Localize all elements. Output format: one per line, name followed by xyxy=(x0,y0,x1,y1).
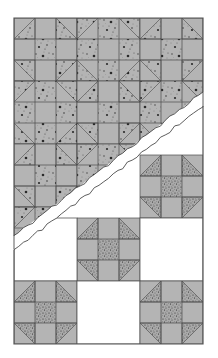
quilt-diagram xyxy=(0,0,218,358)
plain-white-square xyxy=(77,281,140,344)
plain-white-square xyxy=(140,218,203,281)
upper-shoofly-block xyxy=(140,18,203,81)
upper-alternate-block xyxy=(14,81,77,144)
lower-shoofly-block xyxy=(14,281,77,344)
lower-shoofly-block xyxy=(77,218,140,281)
lower-shoofly-block xyxy=(140,155,203,218)
lower-shoofly-block xyxy=(140,281,203,344)
upper-shoofly-block xyxy=(14,18,77,81)
upper-shoofly-block xyxy=(77,81,140,144)
upper-alternate-block xyxy=(77,18,140,81)
